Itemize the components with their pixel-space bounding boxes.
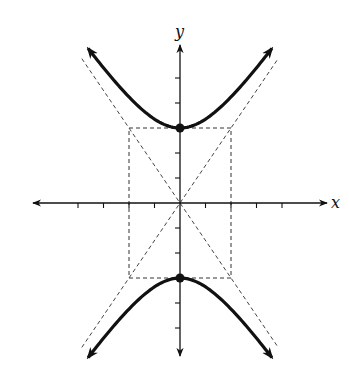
vertex-point [176,274,185,283]
x-axis-label: x [331,193,340,212]
y-axis-label: y [174,22,185,41]
vertex-point [176,124,185,133]
hyperbola-graph: x y [0,0,349,382]
